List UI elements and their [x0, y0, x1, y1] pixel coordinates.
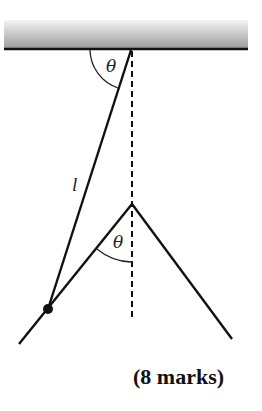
lower-angle-label: θ: [113, 232, 123, 252]
bob-dot: [43, 304, 53, 314]
ceiling: [4, 20, 248, 49]
marks-label: (8 marks): [133, 364, 224, 390]
pendulum-diagram: θ l θ: [0, 0, 262, 411]
string-length-label: l: [72, 174, 77, 195]
string: [48, 50, 131, 309]
top-angle-label: θ: [106, 56, 116, 76]
rod-right-arm: [132, 204, 232, 339]
